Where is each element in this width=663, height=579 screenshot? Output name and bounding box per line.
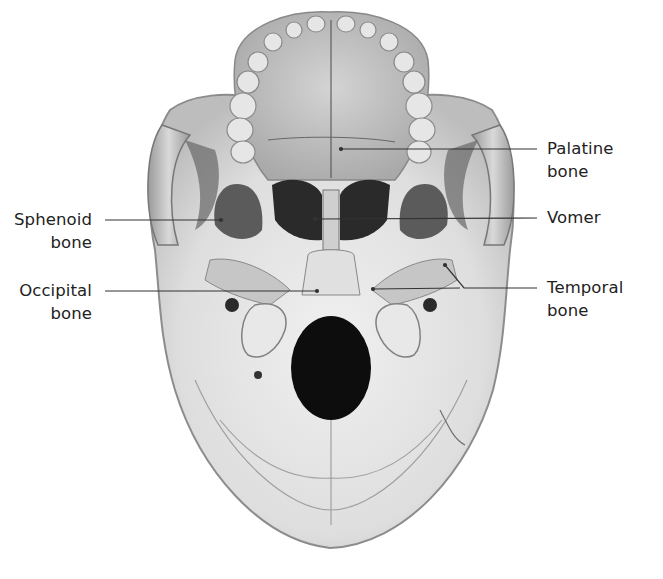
label-line: bone [547,299,623,322]
label-sphenoid-bone: Sphenoid bone [0,208,92,254]
label-line: Occipital [0,279,92,302]
skull-inferior-view-figure: Palatine bone Vomer Temporal bone Spheno… [0,0,663,579]
label-occipital-bone: Occipital bone [0,279,92,325]
maxilla-palate [234,12,429,180]
label-line: bone [0,231,92,254]
label-temporal-bone: Temporal bone [547,276,623,322]
label-line: Vomer [547,206,601,229]
label-line: Sphenoid [0,208,92,231]
label-vomer: Vomer [547,206,601,229]
label-line: Palatine [547,137,613,160]
label-line: bone [0,302,92,325]
label-line: bone [547,160,613,183]
foramen-magnum [291,316,371,420]
label-line: Temporal [547,276,623,299]
label-palatine-bone: Palatine bone [547,137,613,183]
